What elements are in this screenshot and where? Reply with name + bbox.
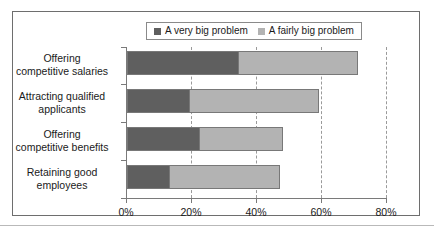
ytick-mark-0 xyxy=(121,47,126,48)
ytick-mark-4 xyxy=(121,198,126,199)
category-label-line2: competitive benefits xyxy=(2,141,122,154)
bar-row-offering-competitive-salaries xyxy=(127,51,358,75)
bar-row-offering-competitive-benefits xyxy=(127,127,283,151)
ytick-mark-3 xyxy=(121,160,126,161)
legend-swatch-fairly-big-problem xyxy=(258,28,265,35)
chart-legend: A very big problem A fairly big problem xyxy=(146,22,362,40)
plot-area: 0% 20% 40% 60% 80% Offering competitive … xyxy=(126,47,386,198)
ytick-mark-2 xyxy=(121,122,126,123)
xtick-label-80: 80% xyxy=(375,206,396,218)
category-label-line2: competitive salaries xyxy=(2,65,122,78)
bar-segment xyxy=(127,165,169,189)
xtick-label-60: 60% xyxy=(310,206,331,218)
legend-item-very-big-problem: A very big problem xyxy=(154,26,248,36)
xtick-label-20: 20% xyxy=(180,206,201,218)
bar-segment xyxy=(127,127,199,151)
xtick-label-0: 0% xyxy=(118,206,133,218)
category-label-line1: Retaining good xyxy=(2,166,122,179)
legend-label-fairly-big-problem: A fairly big problem xyxy=(269,26,354,36)
bar-row-attracting-qualified-applicants xyxy=(127,89,319,113)
xtick-label-40: 40% xyxy=(245,206,266,218)
category-label-offering-competitive-benefits: Offering competitive benefits xyxy=(2,128,122,153)
legend-swatch-very-big-problem xyxy=(154,28,161,35)
bar-row-retaining-good-employees xyxy=(127,165,280,189)
ytick-mark-1 xyxy=(121,84,126,85)
xtick-mark-60 xyxy=(321,198,322,203)
legend-label-very-big-problem: A very big problem xyxy=(165,26,248,36)
category-label-offering-competitive-salaries: Offering competitive salaries xyxy=(2,52,122,77)
category-label-line1: Offering xyxy=(2,128,122,141)
category-label-line1: Attracting qualified xyxy=(2,90,122,103)
bar-segment xyxy=(189,89,319,113)
gridline-80 xyxy=(386,47,387,198)
bar-segment xyxy=(238,51,358,75)
category-label-line1: Offering xyxy=(2,52,122,65)
xtick-mark-40 xyxy=(256,198,257,203)
bar-segment xyxy=(169,165,280,189)
bar-segment xyxy=(199,127,284,151)
category-label-attracting-qualified-applicants: Attracting qualified applicants xyxy=(2,90,122,115)
page-bottom-rule xyxy=(0,225,434,226)
category-label-retaining-good-employees: Retaining good employees xyxy=(2,166,122,191)
category-label-line2: applicants xyxy=(2,103,122,116)
xtick-mark-80 xyxy=(386,198,387,203)
legend-item-fairly-big-problem: A fairly big problem xyxy=(258,26,354,36)
bar-segment xyxy=(127,51,238,75)
chart-figure: A very big problem A fairly big problem … xyxy=(0,0,434,233)
xtick-mark-20 xyxy=(191,198,192,203)
bar-segment xyxy=(127,89,189,113)
xtick-mark-0 xyxy=(126,198,127,203)
category-label-line2: employees xyxy=(2,179,122,192)
